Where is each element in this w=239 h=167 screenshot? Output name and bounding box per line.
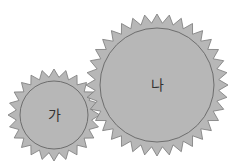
- large-gear-label: 나: [151, 77, 164, 93]
- small-gear: 가: [8, 69, 100, 161]
- large-gear: 나: [86, 14, 228, 156]
- gear-diagram: 가 나: [0, 0, 239, 167]
- small-gear-label: 가: [48, 107, 61, 123]
